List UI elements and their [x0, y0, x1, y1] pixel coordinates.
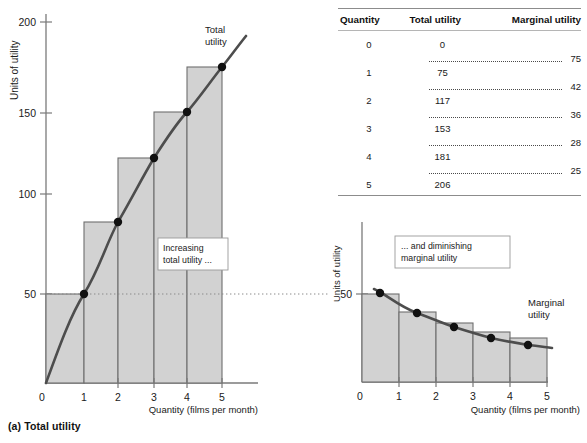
bar-interval-4-5	[187, 67, 222, 383]
marginal-row: 25	[338, 163, 581, 177]
leader-dots	[429, 116, 562, 118]
x-tick-label-5: 5	[544, 390, 550, 402]
cell-marginal-utility: 28	[565, 137, 581, 148]
bar-interval-1-2	[399, 312, 436, 382]
cell-quantity: 1	[338, 67, 400, 78]
cell-quantity: 0	[338, 39, 400, 50]
total-utility-curve-label-line2: utility	[205, 36, 227, 47]
table-row: 1 75	[338, 65, 581, 79]
table-row: 5 206	[338, 177, 581, 191]
cell-marginal-utility: 25	[565, 165, 581, 176]
bar-interval-1-2	[84, 222, 118, 383]
x-tick-label-1: 1	[396, 390, 402, 402]
table-bottom-rule	[338, 195, 581, 196]
leader-dots	[429, 172, 562, 174]
x-tick-label-4: 4	[507, 390, 513, 402]
cell-marginal-utility: 36	[565, 109, 581, 120]
x-tick-label-0: 0	[357, 390, 363, 402]
cell-quantity: 3	[338, 123, 400, 134]
cell-total-utility: 0	[400, 39, 485, 50]
leader-dots	[429, 60, 562, 62]
table-row: 2 117	[338, 93, 581, 107]
data-point-q1-5	[413, 309, 421, 317]
x-axis-title: Quantity (films per month)	[471, 404, 580, 415]
column-header-total-utility: Total utility	[409, 14, 493, 25]
leader-dots	[429, 88, 562, 90]
x-tick-label-2: 2	[115, 391, 121, 403]
table-row: 0 0	[338, 37, 581, 51]
x-tick-label-1: 1	[81, 391, 87, 403]
marginal-row: 42	[338, 79, 581, 93]
data-point-q0-5	[376, 289, 384, 297]
data-point-q4	[183, 108, 191, 116]
x-tick-label-4: 4	[184, 391, 190, 403]
y-tick-label-50: 50	[340, 288, 352, 300]
marginal-utility-curve-label-line1: Marginal	[528, 297, 564, 308]
cell-marginal-utility: 42	[565, 81, 581, 92]
utility-table-panel: Quantity Total utility Marginal utility …	[330, 0, 587, 210]
column-header-marginal-utility: Marginal utility	[494, 14, 581, 25]
total-utility-chart: 200 150 100 50 Units of utility Total ut	[0, 0, 330, 415]
y-tick-label-150: 150	[18, 107, 36, 119]
y-tick-label-50: 50	[24, 288, 36, 300]
x-tick-label-5: 5	[219, 391, 225, 403]
column-header-quantity: Quantity	[338, 14, 409, 25]
marginal-utility-chart: 50 Units of utility Marginal utility	[330, 210, 587, 415]
leader-dots	[429, 144, 562, 146]
y-axis-title: Units of utility	[331, 245, 342, 302]
marginal-row: 75	[338, 51, 581, 65]
x-tick-label-2: 2	[433, 390, 439, 402]
data-point-q1	[80, 290, 88, 298]
callout-increasing-total-utility: Increasing total utility ...	[158, 238, 228, 270]
y-axis-title: Units of utility	[9, 41, 20, 100]
y-tick-label-100: 100	[18, 188, 36, 200]
cell-marginal-utility: 75	[565, 53, 581, 64]
total-utility-bars	[46, 67, 222, 383]
table-row: 3 153	[338, 121, 581, 135]
marginal-row: 28	[338, 135, 581, 149]
panel-a-caption: (a) Total utility	[8, 420, 81, 432]
callout-a-line2: total utility ...	[163, 255, 212, 265]
cell-total-utility: 153	[400, 123, 485, 134]
callout-b-line1: ... and diminishing	[401, 241, 472, 251]
cell-quantity: 2	[338, 95, 400, 106]
marginal-utility-bars	[362, 294, 547, 382]
x-tick-label-3: 3	[151, 391, 157, 403]
utility-table: Quantity Total utility Marginal utility …	[338, 8, 581, 196]
callout-a-line1: Increasing	[163, 243, 204, 253]
callout-diminishing-marginal-utility: ... and diminishing marginal utility	[395, 236, 510, 268]
marginal-utility-panel: 50 Units of utility Marginal utility	[330, 210, 587, 443]
y-tick-label-200: 200	[18, 16, 36, 28]
cell-quantity: 4	[338, 151, 400, 162]
bar-interval-0-1	[362, 294, 399, 382]
x-tick-label-0: 0	[39, 391, 45, 403]
x-axis-title: Quantity (films per month)	[149, 404, 258, 415]
marginal-row: 36	[338, 107, 581, 121]
data-point-q4-5	[524, 341, 532, 349]
cell-total-utility: 206	[400, 179, 485, 190]
total-utility-curve-label-line1: Total	[205, 24, 225, 35]
total-utility-panel: 200 150 100 50 Units of utility Total ut	[0, 0, 330, 443]
x-tick-label-3: 3	[470, 390, 476, 402]
cell-total-utility: 75	[400, 67, 485, 78]
table-header-row: Quantity Total utility Marginal utility	[338, 9, 581, 30]
table-row: 4 181	[338, 149, 581, 163]
data-point-q3-5	[487, 334, 495, 342]
data-point-q5	[218, 63, 226, 71]
callout-b-line2: marginal utility	[401, 253, 458, 263]
data-point-q3	[150, 154, 158, 162]
cell-total-utility: 181	[400, 151, 485, 162]
marginal-utility-curve-label-line2: utility	[528, 309, 550, 320]
data-point-q2	[114, 218, 122, 226]
data-point-q2-5	[450, 323, 458, 331]
cell-quantity: 5	[338, 179, 400, 190]
cell-total-utility: 117	[400, 95, 485, 106]
